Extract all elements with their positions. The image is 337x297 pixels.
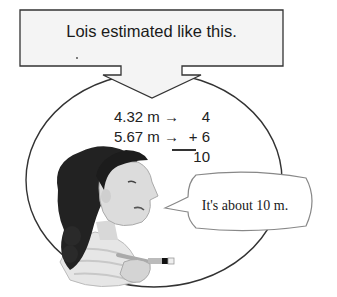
estimation-row: 4.32 m → 4: [114, 107, 184, 127]
plus-operator: +: [189, 128, 198, 145]
header-text: Lois estimated like this.: [20, 22, 283, 41]
arrow-right-icon: →: [164, 128, 179, 145]
rounded-value: + 6: [182, 127, 210, 147]
estimation-row: 5.67 m → + 6: [114, 127, 184, 147]
measurement-value: 5.67 m →: [114, 127, 184, 147]
measurement-value: 4.32 m →: [114, 107, 184, 127]
arrow-right-icon: →: [164, 108, 179, 125]
sum-divider: [172, 149, 196, 151]
rounded-value: 4: [182, 107, 210, 127]
estimation-work: 4.32 m → 4 5.67 m → + 6 10: [114, 107, 184, 167]
speech-bubble-text: It's about 10 m.: [195, 198, 295, 214]
